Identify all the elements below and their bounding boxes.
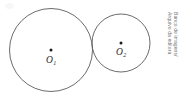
small-circle-center-label-letter: O bbox=[116, 47, 123, 57]
small-circle-center-label-subscript: 2 bbox=[123, 52, 126, 58]
image-credit-line-2: Arquivo da editora bbox=[167, 12, 173, 90]
figure-container: O1 O2 Banco de imagens/ Arquivo da edito… bbox=[0, 0, 179, 101]
small-circle-center-label: O2 bbox=[116, 47, 126, 58]
image-credit-line-1: Banco de imagens/ bbox=[173, 12, 179, 90]
image-credit: Banco de imagens/ Arquivo da editora bbox=[167, 12, 179, 90]
large-circle-center-label-letter: O bbox=[46, 55, 53, 65]
large-circle-center-dot bbox=[50, 49, 53, 52]
large-circle-center-label: O1 bbox=[46, 55, 56, 66]
small-circle-center-dot bbox=[120, 42, 123, 45]
large-circle-center-label-subscript: 1 bbox=[53, 60, 56, 66]
circles-diagram: O1 O2 bbox=[0, 0, 179, 101]
